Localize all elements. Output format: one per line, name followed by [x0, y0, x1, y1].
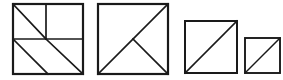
square-divided-four-regions-diagonal-lower-long	[46, 39, 83, 74]
geometry-diagram-canvas	[0, 0, 283, 80]
square-with-anti-diagonal-small-anti-diagonal	[245, 38, 280, 73]
square-divided-four-regions-diagonal-upper-left-quadrant	[13, 4, 46, 39]
figure-board	[0, 0, 283, 80]
square-with-anti-diagonal-and-v-wedge-center-to-bottom-right	[133, 39, 168, 74]
square-with-anti-diagonal-medium-anti-diagonal	[185, 21, 237, 73]
square-divided-four-regions-diagonal-lower-left-quadrant	[13, 39, 48, 74]
square-with-anti-diagonal-small	[245, 38, 280, 73]
square-with-anti-diagonal-and-v-wedge	[98, 4, 168, 74]
square-divided-four-regions	[13, 4, 83, 74]
square-with-anti-diagonal-medium	[185, 21, 237, 73]
